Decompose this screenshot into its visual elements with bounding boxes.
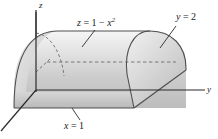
label-plane-y-value: 2 (191, 11, 196, 22)
label-surface-num: 1 (92, 17, 97, 28)
axis-label-z: z (39, 1, 43, 10)
label-surface-exp: 2 (112, 16, 115, 23)
leader-plane-x (72, 108, 80, 120)
label-surface-minus: − (99, 17, 105, 28)
label-plane-x-value: 1 (79, 120, 84, 131)
axis-label-y: y (207, 85, 211, 94)
label-plane-x-eq: = (71, 120, 77, 131)
label-surface-equation: z = 1 − x2 (77, 17, 115, 28)
label-plane-y: y = 2 (176, 12, 196, 22)
label-plane-y-eq: = (183, 11, 189, 22)
label-plane-x: x = 1 (64, 121, 84, 131)
figure-parabolic-cylinder: z = 1 − x2 y = 2 x = 1 z y (0, 0, 218, 139)
